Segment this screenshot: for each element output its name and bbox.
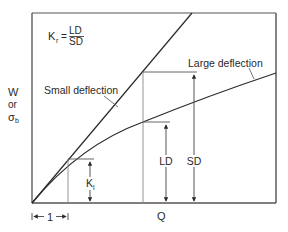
- y-axis-label-sub-b: b: [15, 117, 19, 124]
- kl-label: K: [86, 177, 93, 189]
- x-axis-label-q: Q: [157, 210, 166, 222]
- deflection-diagram: 1 K r = LD SD W or σ b Q Small deflectio…: [0, 0, 288, 232]
- y-axis-label-or: or: [8, 99, 18, 110]
- small-deflection-leader: [104, 96, 118, 107]
- small-deflection-label: Small deflection: [44, 84, 118, 96]
- formula-equals: =: [61, 31, 67, 42]
- q-guides: [143, 72, 197, 203]
- kr-formula: K r = LD SD: [48, 25, 84, 47]
- formula-denominator: SD: [69, 36, 83, 47]
- formula-numerator: LD: [69, 25, 82, 36]
- large-deflection-leader: [249, 68, 254, 79]
- y-axis-label-w: W: [8, 86, 19, 98]
- unit-label: 1: [47, 211, 53, 223]
- formula-k: K: [48, 30, 56, 42]
- large-deflection-label: Large deflection: [188, 57, 263, 69]
- formula-sub-r: r: [56, 37, 59, 44]
- y-axis-label-sigma: σ: [8, 111, 15, 123]
- sd-label: SD: [187, 155, 202, 167]
- ld-label: LD: [159, 155, 173, 167]
